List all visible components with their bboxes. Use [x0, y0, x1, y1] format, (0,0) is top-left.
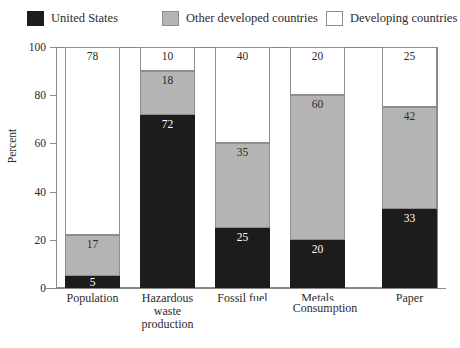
bar-value-other-developed-countries: 18	[162, 72, 174, 87]
y-tick-label-20: 20	[14, 235, 46, 247]
bar-segment-other-developed-countries[interactable]: 17	[65, 235, 120, 276]
bar-group-hazardous-waste-production[interactable]: 10 18 72	[140, 47, 195, 288]
stacked-bar-chart-figure: United States Other developed countries …	[0, 0, 460, 348]
bar-value-developing-countries: 40	[237, 48, 249, 63]
bar-group-population[interactable]: 78 17 5	[65, 47, 120, 288]
bar-value-developing-countries: 78	[87, 48, 99, 63]
bar-value-united-states: 5	[90, 277, 96, 289]
bar-value-other-developed-countries: 17	[87, 236, 99, 251]
bar-segment-developing-countries[interactable]: 10	[140, 47, 195, 71]
legend-swatch-developing-countries	[326, 11, 343, 26]
y-tick-label-60: 60	[14, 138, 46, 150]
bar-value-developing-countries: 10	[162, 48, 174, 63]
bar-segment-united-states[interactable]: 25	[215, 228, 270, 288]
bar-segment-developing-countries[interactable]: 40	[215, 47, 270, 143]
bar-value-other-developed-countries: 42	[404, 108, 416, 123]
legend-item-united-states: United States	[27, 11, 118, 26]
x-axis-line	[44, 288, 446, 289]
x-label-line: production	[131, 318, 204, 331]
bar-segment-other-developed-countries[interactable]: 42	[382, 107, 437, 208]
legend-item-developing-countries: Developing countries	[326, 11, 457, 26]
consumption-bracket: Consumption	[248, 308, 402, 322]
bar-segment-other-developed-countries[interactable]: 35	[215, 143, 270, 227]
y-tick-label-40: 40	[14, 187, 46, 199]
x-label-population: Population	[56, 292, 129, 305]
bar-segment-developing-countries[interactable]: 25	[382, 47, 437, 107]
bar-segment-developing-countries[interactable]: 20	[290, 47, 345, 95]
bar-value-united-states: 72	[162, 116, 174, 131]
bar-segment-united-states[interactable]: 72	[140, 115, 195, 289]
x-label-line: Population	[56, 292, 129, 305]
y-tick-label-80: 80	[14, 90, 46, 102]
bar-group-paper[interactable]: 25 42 33	[382, 47, 437, 288]
bar-group-fossil-fuel[interactable]: 40 35 25	[215, 47, 270, 288]
x-label-hazardous-waste-production: Hazardous waste production	[131, 292, 204, 331]
legend-swatch-other-developed-countries	[162, 11, 179, 26]
bar-segment-other-developed-countries[interactable]: 60	[290, 95, 345, 240]
bar-value-united-states: 33	[404, 210, 416, 225]
bar-segment-united-states[interactable]: 33	[382, 209, 437, 289]
bar-group-metals[interactable]: 20 60 20	[290, 47, 345, 288]
legend-swatch-united-states	[27, 11, 44, 26]
bar-value-united-states: 20	[312, 241, 324, 256]
bar-value-developing-countries: 20	[312, 48, 324, 63]
consumption-label-text: Consumption	[289, 301, 362, 315]
legend-label-developing-countries: Developing countries	[350, 12, 457, 25]
bar-segment-other-developed-countries[interactable]: 18	[140, 71, 195, 115]
bar-segment-developing-countries[interactable]: 78	[65, 47, 120, 235]
legend-label-united-states: United States	[51, 12, 118, 25]
bar-value-other-developed-countries: 35	[237, 144, 249, 159]
bar-value-developing-countries: 25	[404, 48, 416, 63]
bar-value-other-developed-countries: 60	[312, 96, 324, 111]
chart-legend: United States Other developed countries …	[0, 8, 460, 38]
consumption-label: Consumption	[248, 301, 402, 315]
y-tick-label-0: 0	[14, 283, 46, 295]
y-tick-label-100: 100	[14, 42, 46, 54]
bar-segment-united-states[interactable]: 5	[65, 276, 120, 288]
bar-value-united-states: 25	[237, 229, 249, 244]
legend-item-other-developed-countries: Other developed countries	[162, 11, 318, 26]
bar-segment-united-states[interactable]: 20	[290, 240, 345, 288]
legend-label-other-developed-countries: Other developed countries	[186, 12, 318, 25]
